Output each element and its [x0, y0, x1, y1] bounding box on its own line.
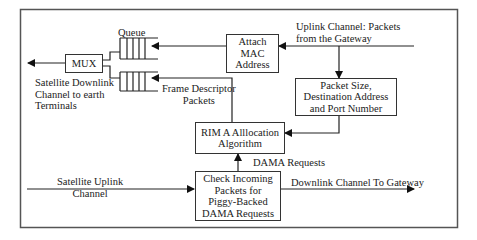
attach-mac-line-3: Address: [235, 59, 269, 71]
check-box: Check Incoming Packets for Piggy-Backed …: [195, 171, 281, 221]
uplink-gateway-label: Uplink Channel: Packets from the Gateway: [296, 21, 400, 44]
sat-downlink-line-3: Terminals: [35, 100, 114, 112]
attach-mac-box: Attach MAC Address: [226, 34, 279, 73]
sat-uplink-line-1: Satellite Uplink: [57, 176, 123, 188]
queue-label: Queue: [118, 27, 145, 39]
rima-line-2: Algorithm: [201, 138, 279, 150]
rima-box: RIM A Alllocation Algorithm: [195, 122, 285, 154]
edge-queue-top-mux: [103, 52, 120, 60]
frame-descriptor-line-2: Packets: [162, 95, 236, 107]
uplink-gateway-line-1: Uplink Channel: Packets: [296, 21, 400, 33]
packet-size-line-1: Packet Size,: [304, 80, 389, 92]
edge-packetsize-rima: [285, 116, 339, 133]
check-line-3: Piggy-Backed: [202, 196, 274, 208]
packet-size-line-2: Destination Address: [304, 91, 389, 103]
sat-downlink-line-2: Channel to earth: [35, 89, 114, 101]
frame-descriptor-line-1: Frame Descriptor: [162, 83, 236, 95]
check-line-2: Packets for: [202, 185, 274, 197]
attach-mac-line-1: Attach: [235, 36, 269, 48]
attach-mac-line-2: MAC: [235, 48, 269, 60]
sat-downlink-label: Satellite Downlink Channel to earth Term…: [35, 77, 114, 112]
packet-size-line-3: and Port Number: [304, 103, 389, 115]
queue-top: [120, 38, 158, 59]
dama-requests-label: DAMA Requests: [253, 157, 325, 169]
rima-line-1: RIM A Alllocation: [201, 127, 279, 139]
downlink-gateway-label: Downlink Channel To Gateway: [291, 177, 424, 189]
sat-uplink-line-2: Channel: [57, 188, 123, 200]
sat-downlink-line-1: Satellite Downlink: [35, 77, 114, 89]
uplink-gateway-line-2: from the Gateway: [296, 33, 400, 45]
sat-uplink-label: Satellite Uplink Channel: [57, 176, 123, 199]
packet-size-box: Packet Size, Destination Address and Por…: [295, 78, 397, 116]
frame-descriptor-label: Frame Descriptor Packets: [162, 83, 236, 106]
mux-box: MUX: [65, 54, 103, 73]
mux-label: MUX: [72, 58, 97, 70]
check-line-4: DAMA Requests: [202, 208, 274, 220]
check-line-1: Check Incoming: [202, 173, 274, 185]
queue-bottom: [120, 72, 158, 91]
